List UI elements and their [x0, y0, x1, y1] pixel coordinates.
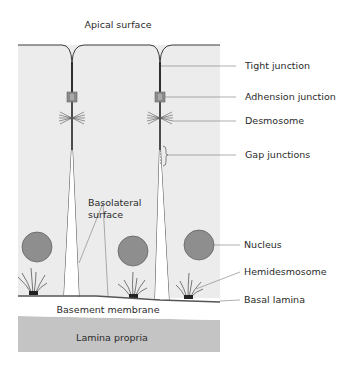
gap-junctions-label: Gap junctions [245, 149, 310, 160]
leader-basal-lamina [220, 300, 240, 301]
adhesion-junction-label: Adhension junction [245, 91, 336, 102]
nucleus-left [22, 232, 52, 262]
nucleus-middle [118, 236, 148, 266]
basement-membrane-label: Basement membrane [57, 304, 160, 315]
nucleus-right [184, 230, 214, 260]
epithelium-diagram: Apical surface Tight junction Adhension … [0, 0, 346, 367]
basolateral-label-line2: surface [88, 209, 123, 220]
tight-junction-label: Tight junction [244, 60, 310, 71]
nucleus-label: Nucleus [244, 239, 282, 250]
apical-surface-label: Apical surface [85, 19, 152, 30]
hemidesmosome-label: Hemidesmosome [244, 266, 327, 277]
epithelial-cell-region [18, 45, 220, 298]
adhesion-junction-right [155, 92, 165, 102]
desmosome-label: Desmosome [245, 115, 304, 126]
lamina-propria-label: Lamina propria [76, 332, 148, 343]
adhesion-junction-left [67, 92, 77, 102]
basolateral-label-line1: Basolateral [88, 197, 142, 208]
basal-lamina-label: Basal lamina [244, 294, 305, 305]
